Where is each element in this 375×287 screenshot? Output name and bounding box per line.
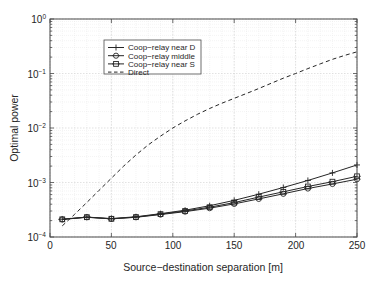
y-tick-base-2: 10 <box>27 123 39 134</box>
x-tick-label-4: 200 <box>288 240 305 251</box>
x-axis-title: Source−destination separation [m] <box>123 261 283 273</box>
y-tick-label-2: 10−2 <box>27 122 46 134</box>
y-tick-exp-4: −4 <box>39 231 47 238</box>
y-tick-base-0: 10 <box>31 14 43 25</box>
y-tick-label-3: 10−3 <box>27 177 46 189</box>
y-tick-base-4: 10 <box>27 232 39 243</box>
y-tick-label-1: 10−1 <box>27 68 46 80</box>
optimal-power-log-plot: 0 50 100 150 200 250 100 10−1 10−2 10−3 … <box>0 0 375 287</box>
x-tick-label-1: 50 <box>105 240 117 251</box>
x-tick-label-2: 100 <box>165 240 182 251</box>
y-tick-label-4: 10−4 <box>27 231 46 243</box>
legend[interactable]: Coop−relay near DCoop−relay middleCoop−r… <box>104 40 201 77</box>
y-tick-exp-2: −2 <box>39 122 47 129</box>
y-tick-exp-1: −1 <box>39 68 47 75</box>
y-tick-base-1: 10 <box>27 69 39 80</box>
y-tick-labels: 100 10−1 10−2 10−3 10−4 <box>27 13 46 243</box>
y-tick-base-3: 10 <box>27 178 39 189</box>
x-tick-label-3: 150 <box>226 240 243 251</box>
chart-figure: 0 50 100 150 200 250 100 10−1 10−2 10−3 … <box>0 0 375 287</box>
y-axis-title: Optimal power <box>8 94 20 162</box>
x-tick-label-5: 250 <box>349 240 366 251</box>
x-tick-label-0: 0 <box>47 240 53 251</box>
x-tick-labels: 0 50 100 150 200 250 <box>47 240 366 251</box>
y-tick-label-0: 100 <box>31 13 46 25</box>
y-tick-exp-0: 0 <box>42 13 46 20</box>
y-tick-exp-3: −3 <box>39 177 47 184</box>
legend-label-3: Direct <box>128 68 150 77</box>
